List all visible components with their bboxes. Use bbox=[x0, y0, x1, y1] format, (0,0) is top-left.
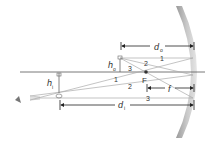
focal-point bbox=[144, 70, 148, 74]
ray-3-in bbox=[120, 58, 193, 98]
ray-label-3-upper: 3 bbox=[128, 65, 132, 72]
ray-label-2-upper: 2 bbox=[144, 60, 148, 67]
mirror-diagram: d o d i h o h i f F 1 2 3 1 2 3 bbox=[0, 0, 214, 146]
image bbox=[56, 73, 62, 98]
eye-icon bbox=[15, 96, 40, 103]
ho-sub: o bbox=[113, 66, 116, 72]
ray-label-2-lower: 2 bbox=[128, 83, 132, 90]
ray-label-3-lower: 3 bbox=[146, 95, 150, 102]
ray-label-1-lower: 1 bbox=[114, 76, 118, 83]
hi-sub: i bbox=[52, 84, 53, 90]
F-label: F bbox=[142, 76, 147, 85]
f-label: f bbox=[168, 84, 172, 94]
ray-label-1-upper: 1 bbox=[160, 55, 164, 62]
dimensions bbox=[60, 42, 194, 110]
do-sub: o bbox=[160, 47, 163, 53]
di-sub: i bbox=[124, 105, 125, 111]
